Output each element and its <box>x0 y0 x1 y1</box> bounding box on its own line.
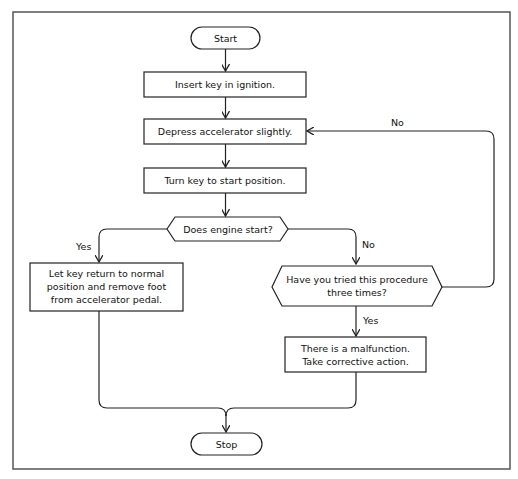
engine-no-label: No <box>362 239 375 250</box>
let-key-return-line-2: position and remove foot <box>47 281 167 292</box>
let-key-return-line-3: from accelerator pedal. <box>51 294 162 305</box>
edge-tried-no-loop <box>307 131 494 287</box>
tried-line-1: Have you tried this procedure <box>286 274 428 285</box>
turn-key-label: Turn key to start position. <box>163 175 285 186</box>
edge-engine-no <box>288 229 356 264</box>
tried-no-label: No <box>391 117 404 128</box>
depress-label: Depress accelerator slightly. <box>158 126 292 137</box>
insert-key-label: Insert key in ignition. <box>175 79 275 90</box>
tried-yes-label: Yes <box>362 315 378 326</box>
edge-malfunction-to-stop <box>226 372 356 416</box>
engine-yes-label: Yes <box>75 241 91 252</box>
tried-line-2: three times? <box>327 287 387 298</box>
engine-start-label: Does engine start? <box>183 224 273 235</box>
stop-label: Stop <box>216 439 238 450</box>
edge-let-key-to-stop <box>99 311 226 416</box>
malfunction-line-1: There is a malfunction. <box>300 343 410 354</box>
tried-three-times-decision <box>272 266 442 306</box>
flowchart: Start Insert key in ignition. Depress ac… <box>0 0 518 479</box>
edge-engine-yes <box>99 229 167 262</box>
let-key-return-line-1: Let key return to normal <box>49 268 164 279</box>
malfunction-line-2: Take corrective action. <box>301 356 409 367</box>
start-label: Start <box>214 33 237 44</box>
